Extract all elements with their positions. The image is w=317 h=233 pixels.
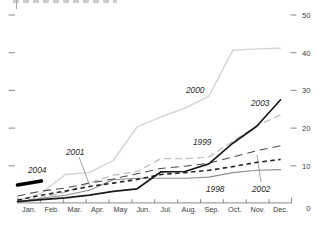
y-tick-label-20: 20 [302,124,310,133]
month-label-may: May [114,205,128,214]
month-label-dec: Dec. [273,205,288,214]
year-label-2002: 2002 [251,184,271,194]
y-tick-label-50: 50 [302,11,310,20]
year-label-2000: 2000 [185,85,205,95]
chart-canvas: Jan.Feb.Mar.Apr.MayJun.Jul.Aug.Sep.Oct.N… [0,0,317,233]
left-axis-top-mark [16,0,17,9]
month-label-feb: Feb. [45,205,60,214]
month-label-nov: Nov. [250,205,264,214]
month-label-sep: Sep. [204,205,219,214]
month-label-jan: Jan. [22,205,36,214]
year-label-2001: 2001 [65,147,84,157]
leader-line-2002 [257,155,261,182]
series-line-2004 [18,181,42,185]
series-line-2002 [18,146,281,196]
y-tick-label-40: 40 [302,49,310,58]
monthly-cumulative-line-chart: Jan.Feb.Mar.Apr.MayJun.Jul.Aug.Sep.Oct.N… [0,0,317,233]
y-tick-label-0: 0 [306,204,310,213]
series-line-2003 [18,100,281,202]
month-label-mar: Mar. [68,205,82,214]
year-label-2003: 2003 [250,98,270,108]
clipped-caption-remnant [13,0,117,3]
month-label-oct: Oct. [228,205,241,214]
y-tick-label-10: 10 [302,162,310,171]
month-label-jul: Jul. [161,205,172,214]
leader-line-2001 [79,157,90,186]
year-label-1999: 1999 [193,137,212,147]
year-label-1998: 1998 [206,184,225,194]
series-line-1998 [18,170,281,202]
year-label-2004: 2004 [27,165,47,175]
month-label-jun: Jun. [136,205,150,214]
month-label-apr: Apr. [91,205,104,214]
month-label-aug: Aug. [182,205,197,214]
y-tick-label-30: 30 [302,86,310,95]
